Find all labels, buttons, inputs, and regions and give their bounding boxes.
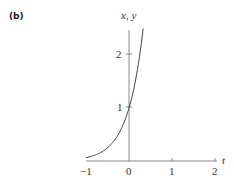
- x-axis-label: t: [222, 154, 226, 166]
- x-tick-label-neg1: −1: [80, 165, 92, 177]
- chart: x, y t 2 1 −1 0 1 2: [0, 0, 234, 179]
- x-tick-label-2: 2: [212, 165, 218, 177]
- x-tick-label-0: 0: [126, 165, 132, 177]
- y-tick-label-1: 1: [117, 101, 123, 113]
- y-tick-label-2: 2: [116, 48, 122, 60]
- y-axis-label: x, y: [120, 9, 136, 21]
- exponential-curve: [86, 29, 143, 158]
- x-tick-label-1: 1: [169, 165, 175, 177]
